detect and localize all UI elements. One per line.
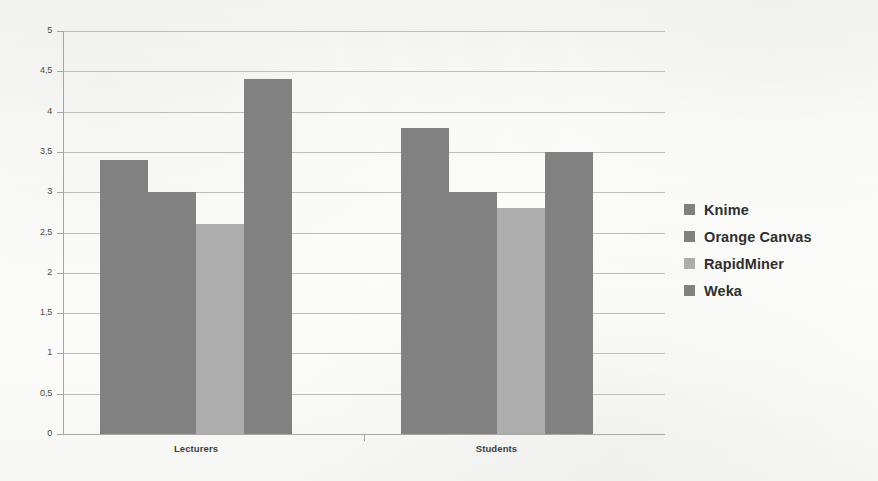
y-axis-tick-mark — [57, 31, 64, 32]
x-axis-center-tick — [364, 434, 365, 441]
y-axis-tick-mark — [57, 112, 64, 113]
legend-label: Knime — [704, 202, 749, 218]
plot-area — [64, 31, 665, 434]
gridline — [64, 71, 665, 72]
legend-label: Weka — [704, 283, 742, 299]
legend-label: Orange Canvas — [704, 229, 812, 245]
y-axis-tick-mark — [57, 313, 64, 314]
gridline — [64, 31, 665, 32]
x-axis-label-students: Students — [437, 443, 557, 454]
y-axis-tick-label: 1 — [12, 347, 52, 357]
y-axis-tick-mark — [57, 353, 64, 354]
chart-legend: KnimeOrange CanvasRapidMinerWeka — [684, 196, 869, 304]
legend-swatch-icon — [684, 285, 695, 296]
y-axis-tick-mark — [57, 192, 64, 193]
y-axis-tick-label: 0 — [12, 428, 52, 438]
y-axis-tick-label: 4 — [12, 106, 52, 116]
y-axis-tick-label: 5 — [12, 25, 52, 35]
legend-swatch-icon — [684, 204, 695, 215]
chart-page: 54,543,532,521,510,50 LecturersStudents … — [0, 0, 878, 481]
y-axis-tick-mark — [57, 71, 64, 72]
y-axis-tick-mark — [57, 233, 64, 234]
x-axis-label-lecturers: Lecturers — [136, 443, 256, 454]
y-axis-tick-label: 3,5 — [12, 146, 52, 156]
y-axis-tick-mark — [57, 434, 64, 435]
gridline — [64, 434, 665, 435]
y-axis-tick-label: 0,5 — [12, 388, 52, 398]
y-axis-tick-label: 1,5 — [12, 307, 52, 317]
legend-item-orange-canvas[interactable]: Orange Canvas — [684, 223, 869, 250]
bar-weka-students — [545, 152, 593, 434]
legend-item-knime[interactable]: Knime — [684, 196, 869, 223]
bar-knime-students — [401, 128, 449, 434]
y-axis-tick-label: 2 — [12, 267, 52, 277]
y-axis-tick-mark — [57, 273, 64, 274]
bar-knime-lecturers — [100, 160, 148, 434]
bar-rapidminer-students — [497, 208, 545, 434]
bar-orange-canvas-lecturers — [148, 192, 196, 434]
bar-orange-canvas-students — [449, 192, 497, 434]
legend-swatch-icon — [684, 258, 695, 269]
y-axis-tick-mark — [57, 152, 64, 153]
legend-item-weka[interactable]: Weka — [684, 277, 869, 304]
y-axis-tick-label: 3 — [12, 186, 52, 196]
bar-weka-lecturers — [244, 79, 292, 434]
y-axis-tick-mark — [57, 394, 64, 395]
legend-label: RapidMiner — [704, 256, 784, 272]
bar-rapidminer-lecturers — [196, 224, 244, 434]
y-axis-tick-label: 2,5 — [12, 227, 52, 237]
legend-item-rapidminer[interactable]: RapidMiner — [684, 250, 869, 277]
legend-swatch-icon — [684, 231, 695, 242]
y-axis-tick-label: 4,5 — [12, 65, 52, 75]
gridline — [64, 112, 665, 113]
